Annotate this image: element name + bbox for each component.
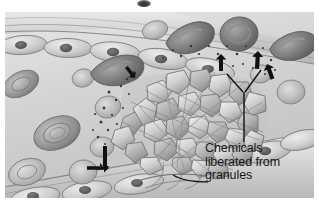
illustration-plate: [5, 12, 314, 198]
caption-line-1: Chemicals: [205, 142, 262, 156]
page-artifact-smudge: [137, 0, 151, 7]
illustration-figure: Chemicals liberated from granules: [0, 0, 319, 210]
caption-line-3: granules: [205, 169, 252, 183]
